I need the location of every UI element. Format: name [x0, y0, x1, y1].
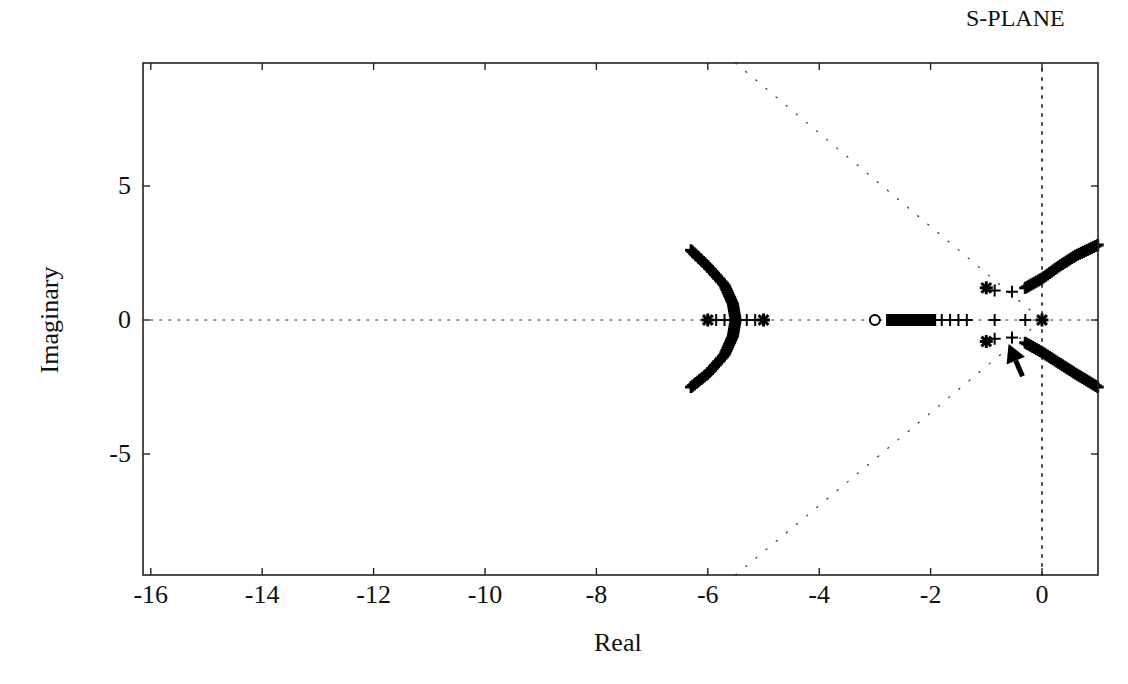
locus-lower-branch — [989, 332, 1104, 393]
chart-title: S-PLANE — [966, 5, 1065, 32]
damping-line-lower — [736, 320, 1042, 575]
y-tick-label: 5 — [118, 171, 131, 201]
damping-line-upper — [736, 63, 1042, 320]
zero-marker — [870, 315, 880, 325]
x-tick-label: -10 — [468, 580, 503, 610]
x-tick-label: -14 — [245, 580, 280, 610]
locus-upper-branch — [989, 239, 1104, 298]
data-series — [685, 239, 1104, 393]
y-tick-label: 0 — [118, 305, 131, 335]
y-axis-label: Imaginary — [35, 265, 65, 375]
x-tick-label: -16 — [133, 580, 168, 610]
x-tick-label: -2 — [920, 580, 942, 610]
x-tick-label: -6 — [697, 580, 719, 610]
x-tick-label: 0 — [1036, 580, 1049, 610]
arrow-shaft — [1016, 361, 1023, 377]
annotations — [1007, 344, 1025, 376]
x-tick-label: -4 — [808, 580, 830, 610]
root-locus-plot — [0, 0, 1128, 684]
x-axis-label: Real — [594, 628, 642, 658]
x-tick-label: -12 — [356, 580, 391, 610]
open-loop-zeros — [870, 315, 880, 325]
x-tick-label: -8 — [586, 580, 608, 610]
dense-locus-bar — [886, 314, 936, 326]
y-tick-label: -5 — [109, 439, 131, 469]
locus-real-to-zero — [886, 314, 1031, 326]
